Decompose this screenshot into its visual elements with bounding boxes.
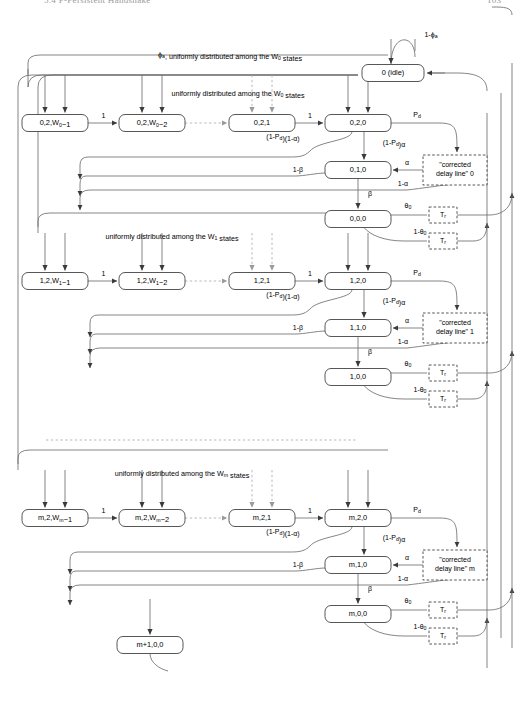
- node-row-0-backoff-3: 0,2,0: [325, 115, 391, 132]
- node-row-1-sense: 1,1,0: [325, 320, 391, 337]
- node-row-0-sense-label: 0,1,0: [350, 165, 366, 174]
- edge-label-row-m-one-minus-beta: 1-β: [293, 561, 303, 569]
- caption-uniform-w1: uniformly distributed among the W1 state…: [105, 232, 239, 243]
- node-row-0-backoff-2: 0,2,1: [229, 115, 295, 132]
- node-row-m-final-label: m,0,0: [349, 609, 367, 618]
- node-row-1-backoff-0: 1,2,W1−1: [22, 273, 88, 290]
- edge-label-row-m-beta: β: [368, 585, 372, 593]
- node-row-m-backoff-2: m,2,1: [229, 510, 295, 527]
- edge-label-row-1-b23: 1: [308, 270, 312, 277]
- node-row-m-backoff-1: m,2,Wm−2: [119, 510, 185, 527]
- node-row-0-backoff-2-label: 0,2,1: [254, 118, 270, 127]
- box-row-1-delay-line-label: delay line" 1: [436, 328, 474, 336]
- node-overflow: m+1,0,0: [117, 637, 183, 654]
- box-row-m-delay-line-label: "corrected: [439, 556, 471, 563]
- node-row-1-backoff-3-label: 1,2,0: [350, 276, 366, 285]
- edge-label-row-0-one-minus-beta: 1-β: [293, 166, 303, 174]
- edge-label-row-m-one-minus-alpha: 1-α: [398, 575, 408, 582]
- node-row-0-final-label: 0,0,0: [350, 214, 366, 223]
- box-row-m-timer-1: Tr: [429, 628, 457, 644]
- node-idle-label: 0 (idle): [382, 68, 405, 77]
- node-row-1-sense-label: 1,1,0: [350, 323, 366, 332]
- edge-label-row-1-theta: θ0: [405, 360, 412, 369]
- node-row-0-backoff-0: 0,2,W0−1: [22, 115, 88, 132]
- edge-label-row-m-drop: Pd: [413, 506, 421, 515]
- node-row-m-backoff-3: m,2,0: [325, 510, 391, 527]
- node-row-0-backoff-1: 0,2,W0−2: [119, 115, 185, 132]
- edge-label-row-0-attempt: (1-Pd)α: [383, 139, 406, 149]
- node-row-1-backoff-2: 1,2,1: [229, 273, 295, 290]
- edge-label-row-1-defer: (1-Pd)(1-α): [266, 291, 299, 301]
- edge-label-row-m-alpha: α: [405, 554, 409, 561]
- edge-label-row-m-b23: 1: [308, 507, 312, 514]
- edge-label-row-0-beta: β: [368, 190, 372, 198]
- state-diagram-svg: 0 (idle)0,2,W0−10,2,W0−20,2,10,2,00,1,00…: [0, 0, 523, 701]
- box-row-0-timer-0: Tr: [429, 207, 457, 223]
- edge-label-row-1-alpha: α: [405, 317, 409, 324]
- node-row-1-backoff-1: 1,2,W1−2: [119, 273, 185, 290]
- edge-label-row-m-one-minus-theta: 1-θ0: [413, 623, 426, 632]
- node-row-m-backoff-3-label: m,2,0: [349, 513, 367, 522]
- node-row-m-backoff-2-label: m,2,1: [253, 513, 271, 522]
- edge-label-row-m-defer: (1-Pd)(1-α): [266, 528, 299, 538]
- node-idle: 0 (idle): [362, 65, 424, 82]
- node-row-1-backoff-2-label: 1,2,1: [254, 276, 270, 285]
- box-row-m-delay-line: "correcteddelay line" m: [423, 550, 487, 580]
- edge-label-row-1-one-minus-alpha: 1-α: [398, 338, 408, 345]
- node-row-m-sense: m,1,0: [325, 557, 391, 574]
- edge-label-row-0-one-minus-theta: 1-θ0: [413, 228, 426, 237]
- edge-label-row-0-drop: Pd: [413, 111, 421, 120]
- diagram-canvas: 5.4 P-Persistent Handshake 103 0 (idle)0…: [0, 0, 523, 701]
- edge-label-row-1-attempt: (1-Pd)α: [383, 297, 406, 307]
- box-row-0-delay-line-label: "corrected: [439, 161, 471, 168]
- edge-label-row-0-b01: 1: [102, 112, 106, 119]
- edge-label-row-0-theta: θ0: [405, 202, 412, 211]
- node-row-0-final: 0,0,0: [325, 211, 391, 228]
- box-row-1-timer-1: Tr: [429, 391, 457, 407]
- node-row-m-backoff-0: m,2,Wm−1: [22, 510, 88, 527]
- box-row-0-timer-1: Tr: [429, 233, 457, 249]
- edge-label-row-0-b23: 1: [308, 112, 312, 119]
- node-overflow-label: m+1,0,0: [137, 640, 164, 649]
- edge-label-row-1-b01: 1: [102, 270, 106, 277]
- box-row-m-timer-0: Tr: [429, 602, 457, 618]
- caption-uniform-wm: uniformly distributed among the Wm state…: [115, 469, 250, 480]
- edge-label-row-m-theta: θ0: [405, 597, 412, 606]
- box-row-1-timer-0: Tr: [429, 365, 457, 381]
- edge-label-row-0-one-minus-alpha: 1-α: [398, 180, 408, 187]
- node-row-m-sense-label: m,1,0: [349, 560, 367, 569]
- node-row-1-final-label: 1,0,0: [350, 372, 366, 381]
- caption-phi-uniform-w0: ϕa, uniformly distributed among the W0 s…: [158, 50, 302, 63]
- box-row-1-delay-line-label: "corrected: [439, 319, 471, 326]
- edge-label-row-1-one-minus-beta: 1-β: [293, 324, 303, 332]
- node-row-0-sense: 0,1,0: [325, 162, 391, 179]
- edge-label-row-0-alpha: α: [405, 159, 409, 166]
- box-row-1-delay-line: "correcteddelay line" 1: [423, 313, 487, 343]
- box-row-m-delay-line-label: delay line" m: [435, 565, 475, 573]
- edge-label-idle-selfloop: 1-ϕa: [424, 31, 437, 40]
- node-row-0-backoff-3-label: 0,2,0: [350, 118, 366, 127]
- box-row-0-delay-line: "correcteddelay line" 0: [423, 155, 487, 185]
- edge-label-row-m-attempt: (1-Pd)α: [383, 534, 406, 544]
- edge-label-row-0-defer: (1-Pd)(1-α): [266, 133, 299, 143]
- edge-label-row-1-drop: Pd: [413, 269, 421, 278]
- node-row-m-final: m,0,0: [325, 606, 391, 623]
- edge-label-row-m-b01: 1: [102, 507, 106, 514]
- box-row-0-delay-line-label: delay line" 0: [436, 170, 474, 178]
- edge-label-row-1-one-minus-theta: 1-θ0: [413, 386, 426, 395]
- caption-uniform-w0: uniformly distributed among the W0 state…: [171, 89, 305, 100]
- node-row-1-final: 1,0,0: [325, 369, 391, 386]
- edge-label-row-1-beta: β: [368, 348, 372, 356]
- node-row-1-backoff-3: 1,2,0: [325, 273, 391, 290]
